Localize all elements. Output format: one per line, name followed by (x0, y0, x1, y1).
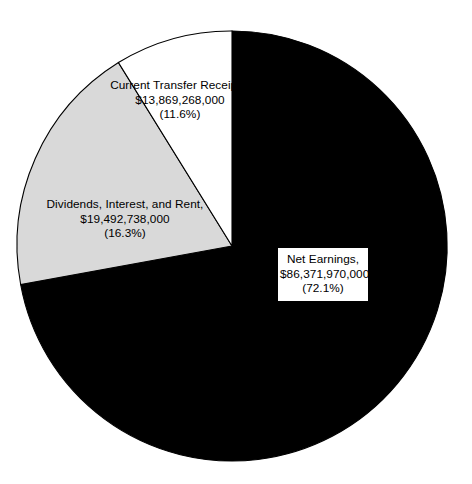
pie-label-dividends-value: $19,492,738,000 (39, 212, 211, 227)
pie-label-net-earnings-value: $86,371,970,000 (280, 267, 366, 282)
pie-label-dividends-percent: (16.3%) (39, 226, 211, 241)
pie-label-net-earnings-name: Net Earnings, (280, 252, 366, 267)
pie-label-net-earnings-percent: (72.1%) (280, 281, 366, 296)
pie-chart: Current Transfer Receipts, $13,869,268,0… (0, 0, 472, 484)
pie-label-net-earnings: Net Earnings, $86,371,970,000 (72.1%) (277, 247, 369, 302)
pie-label-dividends-interest-rent: Dividends, Interest, and Rent, $19,492,7… (39, 197, 211, 241)
pie-chart-graphic (0, 0, 472, 484)
pie-label-current-transfer-name: Current Transfer Receipts, (104, 78, 256, 93)
pie-label-current-transfer-value: $13,869,268,000 (104, 93, 256, 108)
pie-label-current-transfer-percent: (11.6%) (104, 107, 256, 122)
pie-label-current-transfer-receipts: Current Transfer Receipts, $13,869,268,0… (104, 78, 256, 122)
pie-label-dividends-name: Dividends, Interest, and Rent, (39, 197, 211, 212)
